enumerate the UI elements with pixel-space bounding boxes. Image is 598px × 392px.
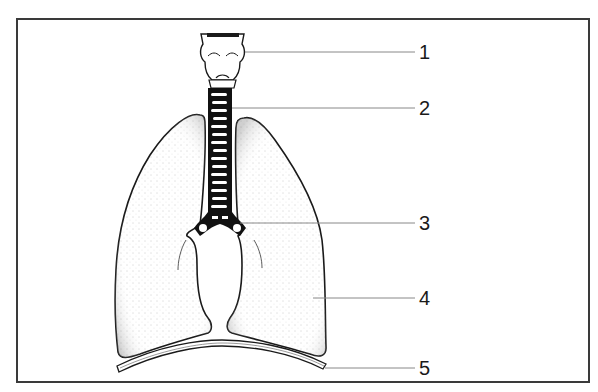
label-4-lung: 4: [419, 288, 430, 308]
label-5-diaphragm: 5: [419, 358, 430, 378]
left-lung: [115, 115, 211, 358]
label-2-trachea: 2: [419, 98, 430, 118]
label-1-larynx: 1: [419, 42, 430, 62]
label-3-bronchi: 3: [419, 213, 430, 233]
trachea: [208, 88, 232, 216]
larynx: [201, 33, 245, 88]
right-lung: [227, 118, 326, 356]
respiratory-diagram: [0, 0, 598, 392]
